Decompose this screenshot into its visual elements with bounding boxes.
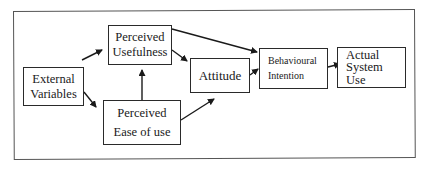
node-label-line: Attitude (199, 68, 242, 84)
node-label-line: Perceived (114, 104, 171, 122)
node-external-variables: External Variables (23, 67, 84, 106)
node-label-line: System (346, 61, 383, 74)
node-label-line: Ease of use (114, 123, 171, 141)
node-label-line: Usefulness (113, 45, 168, 60)
node-perceived-usefulness: Perceived Usefulness (108, 25, 172, 65)
node-label-line: External (30, 72, 77, 87)
node-label-line: Variables (30, 87, 77, 102)
node-behavioural-intention: Behavioural Intention (259, 48, 328, 89)
node-label-line: Perceived (113, 30, 168, 45)
node-attitude: Attitude (190, 58, 250, 93)
node-label-line: Intention (268, 69, 317, 84)
node-perceived-ease-of-use: Perceived Ease of use (103, 100, 181, 145)
node-actual-system-use: Actual System Use (337, 47, 406, 88)
node-label-line: Use (346, 74, 383, 87)
node-label-line: Behavioural (268, 54, 317, 69)
